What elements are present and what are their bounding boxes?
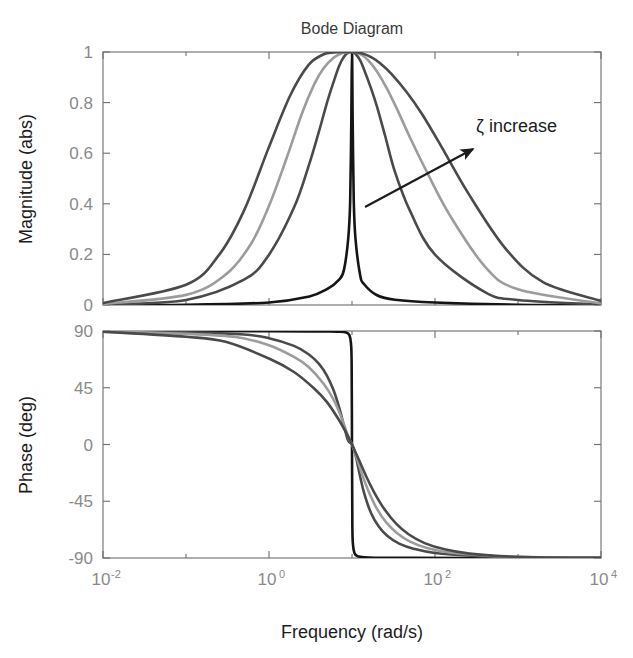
x-tick-label: 10: [590, 570, 609, 589]
x-tick-label: 10: [424, 570, 443, 589]
phase-y-tick-label: 0: [84, 436, 93, 455]
phase-y-tick-label: 90: [74, 322, 93, 341]
magnitude-y-tick-label: 0.2: [69, 245, 93, 264]
x-tick-label: 10: [92, 570, 111, 589]
magnitude-y-tick-label: 0: [84, 296, 93, 315]
page-title: Bode Diagram: [301, 20, 403, 37]
annotation-label: ζ increase: [476, 116, 557, 136]
frequency-axis-label: Frequency (rad/s): [281, 622, 423, 642]
bode-diagram-figure: Bode Diagram 00.20.40.60.81 90450-45-901…: [0, 0, 633, 658]
phase-y-tick-label: 45: [74, 379, 93, 398]
figure-background: [0, 0, 633, 658]
phase-y-tick-label: -90: [68, 549, 93, 568]
x-tick-exponent: 4: [611, 568, 617, 580]
magnitude-axis-label: Magnitude (abs): [16, 114, 36, 244]
x-tick-exponent: -2: [111, 568, 121, 580]
x-tick-exponent: 0: [279, 568, 285, 580]
magnitude-y-tick-label: 1: [84, 43, 93, 62]
x-tick-label: 10: [258, 570, 277, 589]
magnitude-y-tick-label: 0.6: [69, 144, 93, 163]
phase-y-tick-label: -45: [68, 492, 93, 511]
x-tick-exponent: 2: [445, 568, 451, 580]
magnitude-y-tick-label: 0.8: [69, 94, 93, 113]
magnitude-y-tick-label: 0.4: [69, 195, 93, 214]
phase-axis-label: Phase (deg): [16, 396, 36, 494]
